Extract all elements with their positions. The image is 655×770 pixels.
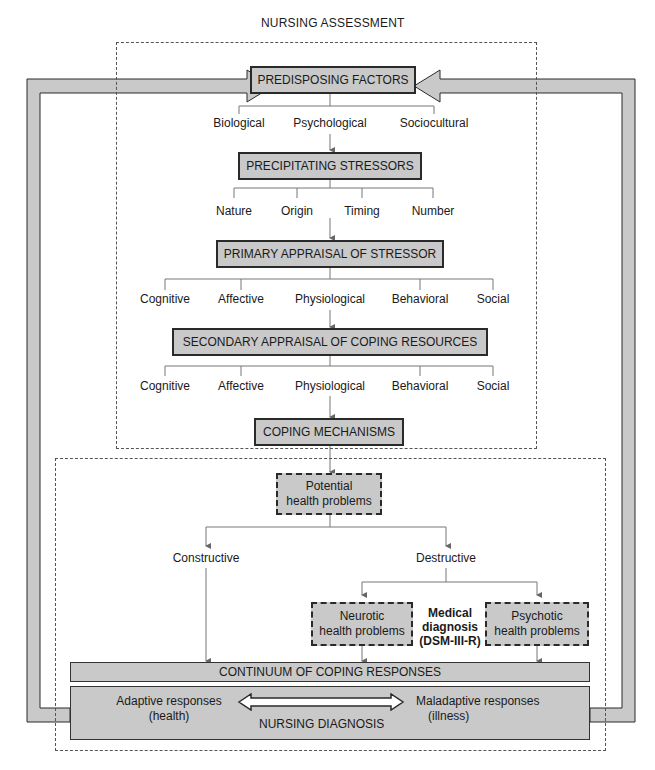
bidirectional-arrow-icon: [237, 693, 405, 711]
precipitating-stressors-box: PRECIPITATING STRESSORS: [238, 152, 422, 180]
primary-cognitive: Cognitive: [140, 292, 190, 306]
precipitating-stressors-label: PRECIPITATING STRESSORS: [246, 159, 414, 173]
nursing-diagnosis-panel: Adaptive responses (health) NURSING DIAG…: [70, 686, 590, 740]
branch-destructive: Destructive: [416, 551, 476, 565]
adaptive-responses: Adaptive responses (health): [109, 694, 229, 724]
maladaptive-line2: (illness): [416, 709, 556, 724]
primary-behavioral: Behavioral: [392, 292, 449, 306]
potential-line1: Potential: [306, 479, 353, 494]
potential-health-problems-box: Potential health problems: [276, 473, 382, 515]
psychotic-line1: Psychotic: [511, 609, 562, 624]
adaptive-line1: Adaptive responses: [109, 694, 229, 709]
stressor-timing: Timing: [344, 204, 380, 218]
primary-appraisal-box: PRIMARY APPRAISAL OF STRESSOR: [216, 240, 444, 268]
secondary-physiological: Physiological: [295, 379, 365, 393]
stressor-origin: Origin: [281, 204, 313, 218]
medical-line2: diagnosis: [415, 620, 485, 634]
branch-constructive: Constructive: [173, 551, 240, 565]
psychotic-health-problems-box: Psychotic health problems: [485, 602, 589, 646]
secondary-cognitive: Cognitive: [140, 379, 190, 393]
factor-sociocultural: Sociocultural: [400, 116, 469, 130]
adaptive-line2: (health): [109, 709, 229, 724]
factor-psychological: Psychological: [293, 116, 366, 130]
coping-mechanisms-box: COPING MECHANISMS: [254, 418, 404, 446]
potential-line2: health problems: [286, 494, 371, 509]
coping-mechanisms-label: COPING MECHANISMS: [263, 425, 395, 439]
primary-social: Social: [477, 292, 510, 306]
predisposing-factors-box: PREDISPOSING FACTORS: [250, 66, 416, 94]
medical-line3: (DSM-III-R): [415, 634, 485, 648]
psychotic-line2: health problems: [494, 624, 579, 639]
primary-appraisal-label: PRIMARY APPRAISAL OF STRESSOR: [224, 247, 437, 261]
neurotic-line1: Neurotic: [340, 609, 385, 624]
assessment-title: NURSING ASSESSMENT: [261, 16, 405, 30]
maladaptive-line1: Maladaptive responses: [416, 694, 556, 709]
primary-physiological: Physiological: [295, 292, 365, 306]
secondary-behavioral: Behavioral: [392, 379, 449, 393]
secondary-social: Social: [477, 379, 510, 393]
medical-line1: Medical: [415, 606, 485, 620]
predisposing-factors-label: PREDISPOSING FACTORS: [257, 73, 408, 87]
secondary-affective: Affective: [218, 379, 264, 393]
neurotic-line2: health problems: [319, 624, 404, 639]
secondary-appraisal-box: SECONDARY APPRAISAL OF COPING RESOURCES: [172, 328, 488, 356]
primary-affective: Affective: [218, 292, 264, 306]
maladaptive-responses: Maladaptive responses (illness): [416, 694, 556, 724]
continuum-label: CONTINUUM OF COPING RESPONSES: [219, 665, 441, 679]
factor-biological: Biological: [213, 116, 264, 130]
nursing-diagnosis-title: NURSING DIAGNOSIS: [259, 717, 384, 731]
neurotic-health-problems-box: Neurotic health problems: [311, 602, 413, 646]
secondary-appraisal-label: SECONDARY APPRAISAL OF COPING RESOURCES: [183, 335, 478, 349]
medical-diagnosis-label: Medical diagnosis (DSM-III-R): [415, 606, 485, 648]
stressor-number: Number: [412, 204, 455, 218]
stressor-nature: Nature: [216, 204, 252, 218]
continuum-of-coping-responses-bar: CONTINUUM OF COPING RESPONSES: [70, 662, 590, 682]
